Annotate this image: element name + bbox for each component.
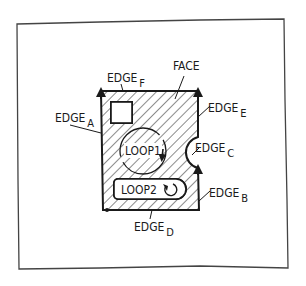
loop1-arrow-icon (162, 149, 163, 158)
square-hole (111, 102, 132, 123)
diagram-canvas: FACE EDGEF EDGEA EDGEE EDGEC EDGEB EDGED… (0, 0, 306, 286)
vertex-dot (105, 208, 109, 212)
leader-edge-f (121, 84, 123, 91)
edge-e-label: EDGEE (208, 101, 247, 120)
leader-edge-a (70, 125, 101, 133)
edge-d-label: EDGED (134, 220, 174, 239)
edge-a-label: EDGEA (55, 111, 94, 130)
edge-b-label: EDGEB (209, 186, 248, 205)
edge-c-label: EDGEC (195, 141, 234, 160)
face-label: FACE (173, 59, 200, 73)
leader-edge-d (150, 210, 152, 219)
edge-f-label: EDGEF (107, 71, 145, 90)
loop1-label: LOOP1 (125, 144, 161, 158)
loop2-label: LOOP2 (121, 183, 157, 197)
